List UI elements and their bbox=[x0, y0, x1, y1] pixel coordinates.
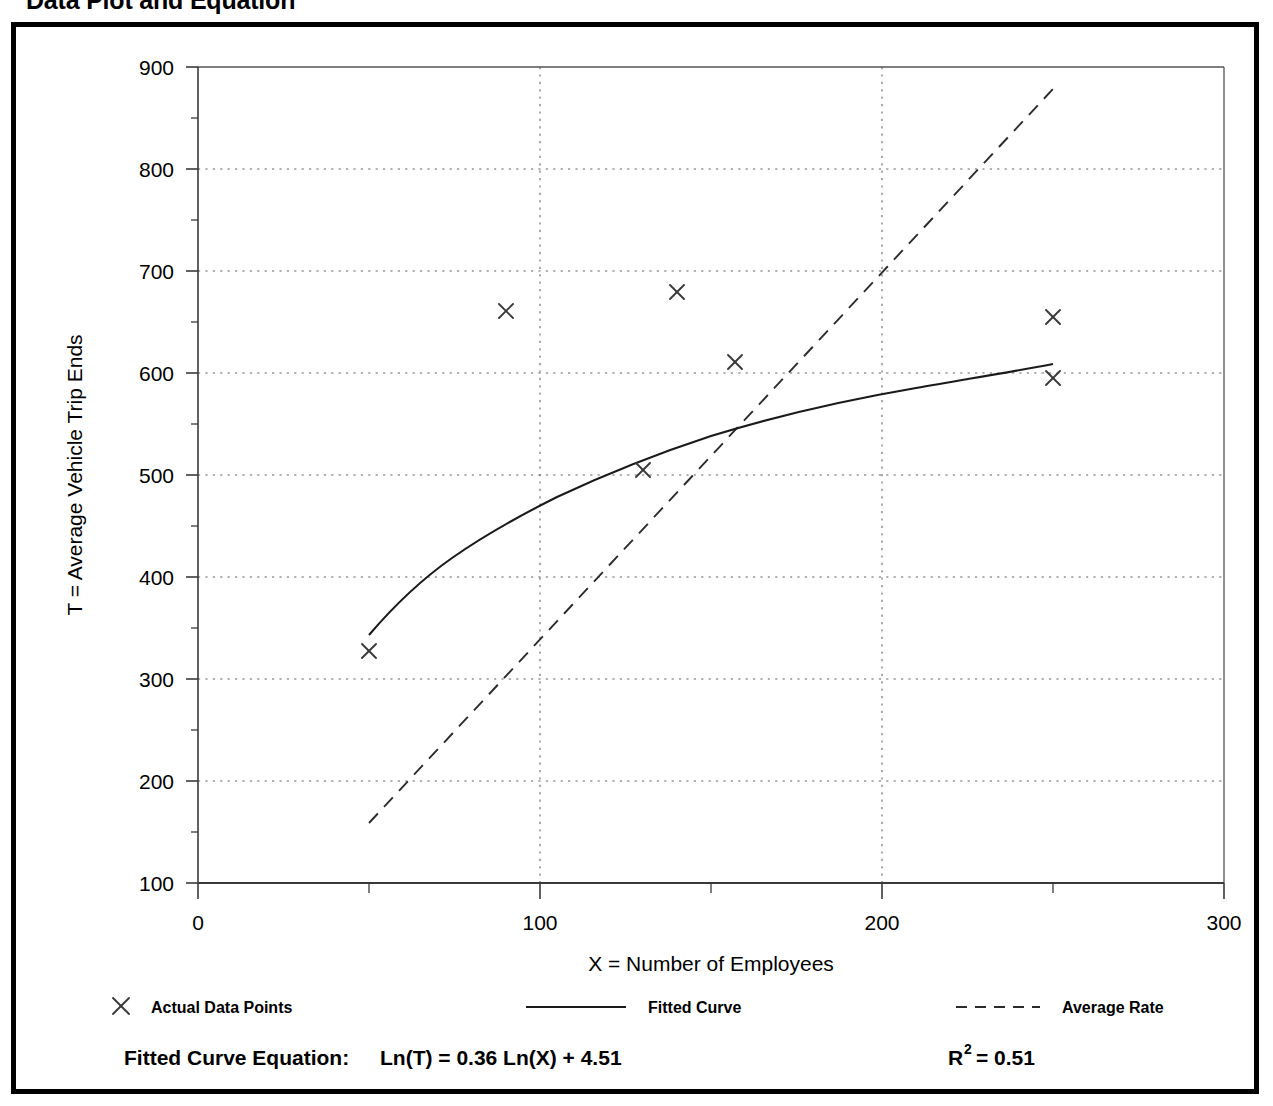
y-axis-title: T = Average Vehicle Trip Ends bbox=[63, 334, 86, 615]
legend-item-actual-data-points[interactable]: Actual Data Points bbox=[113, 998, 292, 1016]
page-title: Data Plot and Equation bbox=[26, 0, 295, 15]
y-tick-label-700: 700 bbox=[139, 260, 174, 283]
y-tick-label-100: 100 bbox=[139, 872, 174, 895]
legend-item-fitted-curve[interactable]: Fitted Curve bbox=[526, 999, 741, 1016]
r-squared-value: = 0.51 bbox=[976, 1046, 1035, 1069]
x-tick-labels: 0 100 200 300 bbox=[192, 911, 1241, 934]
x-tick-label-0: 0 bbox=[192, 911, 204, 934]
y-tick-label-200: 200 bbox=[139, 770, 174, 793]
y-tick-label-500: 500 bbox=[139, 464, 174, 487]
plot-background bbox=[198, 67, 1224, 883]
y-tick-label-800: 800 bbox=[139, 158, 174, 181]
x-axis-title: X = Number of Employees bbox=[588, 952, 834, 975]
x-marker-icon bbox=[113, 998, 129, 1014]
x-tick-label-100: 100 bbox=[522, 911, 557, 934]
y-tick-label-300: 300 bbox=[139, 668, 174, 691]
footer-equation-row: Fitted Curve Equation: Ln(T) = 0.36 Ln(X… bbox=[124, 1041, 1035, 1069]
x-minor-ticks bbox=[369, 883, 1053, 893]
chart-canvas: 900 800 700 600 500 400 300 200 100 0 10… bbox=[16, 27, 1254, 1089]
x-tick-label-300: 300 bbox=[1206, 911, 1241, 934]
y-tick-label-400: 400 bbox=[139, 566, 174, 589]
y-major-ticks bbox=[186, 67, 198, 883]
r-squared-exponent: 2 bbox=[964, 1041, 972, 1057]
y-tick-label-900: 900 bbox=[139, 56, 174, 79]
fitted-curve-equation-label: Fitted Curve Equation: bbox=[124, 1046, 349, 1069]
legend-item-average-rate[interactable]: Average Rate bbox=[956, 999, 1164, 1016]
y-tick-label-600: 600 bbox=[139, 362, 174, 385]
x-tick-label-200: 200 bbox=[864, 911, 899, 934]
fitted-curve-equation-body: Ln(T) = 0.36 Ln(X) + 4.51 bbox=[380, 1046, 622, 1069]
legend-label-actual-data-points: Actual Data Points bbox=[151, 999, 292, 1016]
y-tick-labels: 900 800 700 600 500 400 300 200 100 bbox=[139, 56, 174, 895]
legend-label-average-rate: Average Rate bbox=[1062, 999, 1164, 1016]
chart-legend: Actual Data Points Fitted Curve Average … bbox=[113, 998, 1164, 1016]
legend-label-fitted-curve: Fitted Curve bbox=[648, 999, 741, 1016]
r-squared-base: R bbox=[948, 1046, 963, 1069]
figure-frame: 900 800 700 600 500 400 300 200 100 0 10… bbox=[11, 22, 1259, 1094]
